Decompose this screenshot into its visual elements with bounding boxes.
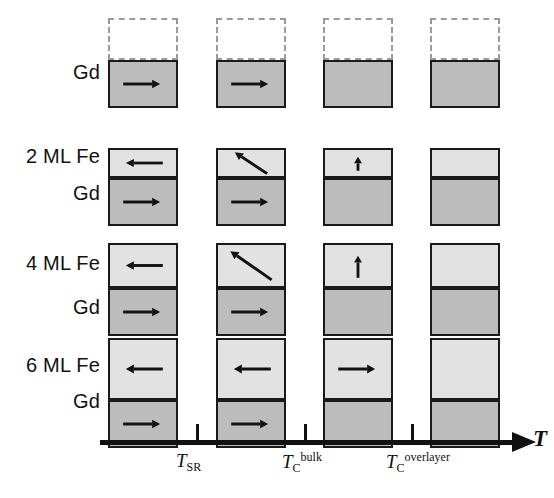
stack-row-2ml-col4 [430, 148, 500, 226]
gd-layer-row-4ml-col1 [108, 288, 178, 336]
stack-row-6ml-col4 [430, 338, 500, 448]
gd-layer-row-2ml-col3 [323, 178, 393, 226]
arrow-fe-row-6ml-col1 [110, 340, 176, 398]
arrow-gd-row-2ml-col2 [218, 180, 284, 224]
fe-layer-row-6ml-col2 [216, 338, 286, 400]
row-label-2ml-gd-bottom: Gd [0, 183, 100, 203]
gd-layer-row-gd-col3 [323, 60, 393, 108]
gd-layer-row-4ml-col2 [216, 288, 286, 336]
arrow-fe-row-2ml-col3 [325, 150, 391, 176]
empty-layer-row-gd-col4 [430, 18, 500, 60]
stack-row-gd-col4 [430, 18, 500, 108]
row-label-4ml-fe-top: 4 ML Fe [0, 253, 100, 273]
empty-layer-row-gd-col2 [216, 18, 286, 60]
tick-mark-tc_bulk [304, 424, 307, 442]
row-label-gd-only-bottom: Gd [0, 62, 100, 82]
fe-layer-row-2ml-col1 [108, 148, 178, 178]
stack-row-2ml-col2 [216, 148, 286, 226]
arrow-fe-row-4ml-col3 [325, 245, 391, 286]
stack-row-4ml-col3 [323, 243, 393, 336]
fe-layer-row-6ml-col3 [323, 338, 393, 400]
magnetic-configuration-diagram: Gd 2 ML Fe Gd 4 ML Fe Gd 6 ML Fe Gd T TS… [0, 0, 554, 498]
stack-row-6ml-col2 [216, 338, 286, 448]
row-label-6ml-gd-bottom: Gd [0, 391, 100, 411]
arrow-gd-row-4ml-col2 [218, 290, 284, 334]
empty-layer-row-gd-col1 [108, 18, 178, 60]
gd-layer-row-gd-col4 [430, 60, 500, 108]
fe-layer-row-2ml-col3 [323, 148, 393, 178]
arrow-gd-row-gd-col1 [110, 62, 176, 106]
arrow-fe-row-4ml-col2 [218, 245, 284, 286]
stack-row-2ml-col3 [323, 148, 393, 226]
fe-layer-row-4ml-col2 [216, 243, 286, 288]
fe-layer-row-2ml-col2 [216, 148, 286, 178]
stack-row-gd-col1 [108, 18, 178, 108]
stack-row-gd-col3 [323, 18, 393, 108]
row-label-4ml-gd-bottom: Gd [0, 297, 100, 317]
gd-layer-row-4ml-col3 [323, 288, 393, 336]
gd-layer-row-4ml-col4 [430, 288, 500, 336]
row-label-6ml-fe-top: 6 ML Fe [0, 355, 100, 375]
arrow-fe-row-2ml-col1 [110, 150, 176, 176]
stack-row-6ml-col1 [108, 338, 178, 448]
fe-layer-row-4ml-col1 [108, 243, 178, 288]
arrow-gd-row-2ml-col1 [110, 180, 176, 224]
stack-row-4ml-col1 [108, 243, 178, 336]
arrow-fe-row-6ml-col3 [325, 340, 391, 398]
stack-row-6ml-col3 [323, 338, 393, 448]
gd-layer-row-2ml-col2 [216, 178, 286, 226]
tick-label-tc_bulk: TCbulk [282, 450, 322, 476]
arrow-gd-row-gd-col2 [218, 62, 284, 106]
axis-title-temperature: T [533, 426, 547, 452]
stack-row-gd-col2 [216, 18, 286, 108]
gd-layer-row-gd-col2 [216, 60, 286, 108]
empty-layer-row-gd-col3 [323, 18, 393, 60]
stack-row-2ml-col1 [108, 148, 178, 226]
arrow-gd-row-4ml-col1 [110, 290, 176, 334]
tick-mark-tc_overlayer [411, 424, 414, 442]
row-label-2ml-fe-top: 2 ML Fe [0, 146, 100, 166]
arrow-fe-row-4ml-col1 [110, 245, 176, 286]
tick-label-tc_overlayer: TCoverlayer [386, 450, 450, 476]
tick-mark-tsr [196, 424, 199, 442]
temperature-axis-line [100, 440, 528, 445]
fe-layer-row-4ml-col4 [430, 243, 500, 288]
fe-layer-row-6ml-col4 [430, 338, 500, 400]
stack-row-4ml-col4 [430, 243, 500, 336]
arrow-fe-row-2ml-col2 [218, 150, 284, 176]
tick-label-tsr: TSR [176, 450, 201, 475]
gd-layer-row-2ml-col4 [430, 178, 500, 226]
fe-layer-row-6ml-col1 [108, 338, 178, 400]
gd-layer-row-gd-col1 [108, 60, 178, 108]
fe-layer-row-4ml-col3 [323, 243, 393, 288]
gd-layer-row-2ml-col1 [108, 178, 178, 226]
arrow-fe-row-6ml-col2 [218, 340, 284, 398]
fe-layer-row-2ml-col4 [430, 148, 500, 178]
stack-row-4ml-col2 [216, 243, 286, 336]
